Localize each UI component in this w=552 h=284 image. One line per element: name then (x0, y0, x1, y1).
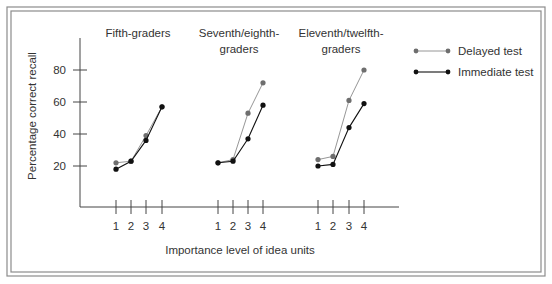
legend-marker-icon (446, 70, 451, 75)
x-tick-label: 4 (361, 220, 368, 232)
panel-title: graders (322, 43, 361, 55)
x-tick-label: 4 (260, 220, 267, 232)
legend-marker-icon (446, 49, 451, 54)
immediate-test-point (128, 159, 133, 164)
delayed-test-point (260, 80, 265, 85)
immediate-test-line (218, 105, 263, 163)
immediate-test-point (159, 104, 164, 109)
chart-panels: Fifth-graders1234Seventh/eighth-graders1… (105, 27, 383, 232)
y-tick-label: 80 (53, 64, 66, 76)
legend-item-delayed: Delayed test (414, 45, 523, 57)
legend-item-immediate: Immediate test (414, 66, 535, 78)
delayed-test-point (113, 160, 118, 165)
immediate-test-point (245, 136, 250, 141)
x-tick-label: 1 (113, 220, 119, 232)
delayed-test-point (330, 154, 335, 159)
y-axis-label: Percentage correct recall (26, 52, 38, 180)
legend-marker-icon (414, 49, 419, 54)
immediate-test-point (330, 162, 335, 167)
x-tick-label: 3 (245, 220, 251, 232)
chart-canvas: 20406080 Fifth-graders1234Seventh/eighth… (0, 0, 552, 284)
panel-2: Seventh/eighth-graders1234 (199, 27, 280, 232)
delayed-test-line (116, 107, 162, 163)
axes: 20406080 (53, 38, 399, 207)
x-tick-label: 2 (230, 220, 236, 232)
panel-title: Seventh/eighth- (199, 27, 280, 39)
y-tick-label: 40 (53, 128, 66, 140)
immediate-test-point (215, 160, 220, 165)
delayed-test-point (361, 67, 366, 72)
delayed-test-point (346, 98, 351, 103)
y-tick-label: 60 (53, 96, 66, 108)
immediate-test-point (113, 167, 118, 172)
immediate-test-point (346, 125, 351, 130)
x-tick-label: 1 (215, 220, 221, 232)
chart-figure: 20406080 Fifth-graders1234Seventh/eighth… (0, 0, 552, 284)
immediate-test-point (143, 138, 148, 143)
immediate-test-point (230, 159, 235, 164)
legend-label: Immediate test (458, 66, 534, 78)
panel-3: Eleventh/twelfth-graders1234 (298, 27, 383, 232)
x-tick-label: 1 (315, 220, 321, 232)
y-tick-label: 20 (53, 160, 66, 172)
legend-marker-icon (414, 70, 419, 75)
panel-title: Eleventh/twelfth- (298, 27, 383, 39)
immediate-test-line (318, 104, 364, 166)
delayed-test-point (315, 157, 320, 162)
immediate-test-line (116, 107, 162, 169)
x-tick-label: 3 (346, 220, 352, 232)
x-axis-label: Importance level of idea units (165, 244, 315, 256)
x-tick-label: 2 (128, 220, 134, 232)
immediate-test-point (260, 103, 265, 108)
x-tick-label: 4 (159, 220, 166, 232)
panel-1: Fifth-graders1234 (105, 27, 170, 232)
panel-title: Fifth-graders (105, 27, 170, 39)
panel-title: graders (220, 43, 259, 55)
legend: Delayed testImmediate test (414, 45, 535, 78)
x-tick-label: 2 (330, 220, 336, 232)
immediate-test-point (361, 101, 366, 106)
delayed-test-point (245, 111, 250, 116)
immediate-test-point (315, 163, 320, 168)
legend-label: Delayed test (458, 45, 523, 57)
x-tick-label: 3 (143, 220, 149, 232)
